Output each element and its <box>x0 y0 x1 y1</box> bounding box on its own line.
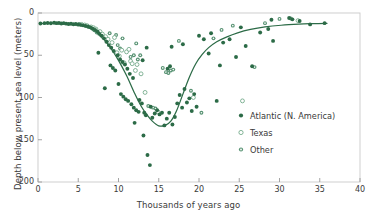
legend-label-atlantic: Atlantic (N. America) <box>250 111 335 121</box>
x-tick-label: 40 <box>351 185 369 194</box>
y-tick-label: 50 <box>12 50 34 59</box>
x-tick-label: 15 <box>150 185 168 194</box>
y-tick-label: 0 <box>12 8 34 17</box>
x-tick-label: 0 <box>29 185 47 194</box>
legend-label-texas: Texas <box>250 128 273 138</box>
axis-frame <box>38 13 360 182</box>
x-axis-label: Thousands of years ago <box>0 200 377 210</box>
x-tick-label: 10 <box>110 185 128 194</box>
y-tick-label: 200 <box>12 177 34 186</box>
x-tick-label: 5 <box>69 185 87 194</box>
x-tick-label: 35 <box>311 185 329 194</box>
y-axis-label: Depth below present sea level (meters) <box>13 18 23 190</box>
x-tick-label: 20 <box>190 185 208 194</box>
legend-label-other: Other <box>250 145 273 155</box>
x-tick-label: 25 <box>230 185 248 194</box>
y-tick-label: 100 <box>12 93 34 102</box>
x-tick-label: 30 <box>271 185 289 194</box>
y-tick-label: 150 <box>12 135 34 144</box>
sea-level-chart-figure: Thousands of years ago Depth below prese… <box>0 0 377 219</box>
